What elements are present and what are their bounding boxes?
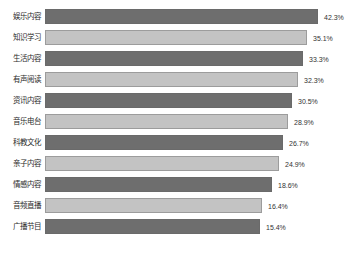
bar-row: 科教文化26.7% xyxy=(0,132,356,153)
bar-track: 16.4% xyxy=(45,195,356,216)
value-label: 32.3% xyxy=(304,75,324,84)
value-label: 24.9% xyxy=(285,159,305,168)
bar-track: 28.9% xyxy=(45,111,356,132)
category-label: 资讯内容 xyxy=(0,96,45,106)
category-label: 生活内容 xyxy=(0,54,45,64)
bar-track: 15.4% xyxy=(45,216,356,237)
bar xyxy=(45,114,288,129)
bar-row: 娱乐内容42.3% xyxy=(0,6,356,27)
value-label: 15.4% xyxy=(266,222,286,231)
bar-track: 42.3% xyxy=(45,6,356,27)
bar-track: 24.9% xyxy=(45,153,356,174)
bar xyxy=(45,72,298,87)
category-label: 有声阅读 xyxy=(0,75,45,85)
category-label: 情感内容 xyxy=(0,180,45,190)
category-label: 知识学习 xyxy=(0,33,45,43)
category-label: 音乐电台 xyxy=(0,117,45,127)
bar-row: 音乐电台28.9% xyxy=(0,111,356,132)
bar-track: 33.3% xyxy=(45,48,356,69)
bar xyxy=(45,156,279,171)
value-label: 28.9% xyxy=(294,117,314,126)
bar xyxy=(45,135,283,150)
bar-rows: 娱乐内容42.3%知识学习35.1%生活内容33.3%有声阅读32.3%资讯内容… xyxy=(0,6,356,237)
bar xyxy=(45,198,262,213)
bar xyxy=(45,51,303,66)
bar-row: 知识学习35.1% xyxy=(0,27,356,48)
bar-track: 18.6% xyxy=(45,174,356,195)
bar xyxy=(45,93,292,108)
value-label: 42.3% xyxy=(324,12,344,21)
bar-row: 音频直播16.4% xyxy=(0,195,356,216)
bar-row: 资讯内容30.5% xyxy=(0,90,356,111)
value-label: 16.4% xyxy=(268,201,288,210)
value-label: 33.3% xyxy=(309,54,329,63)
bar-row: 广播节目15.4% xyxy=(0,216,356,237)
category-label: 音频直播 xyxy=(0,201,45,211)
category-label: 亲子内容 xyxy=(0,159,45,169)
bar xyxy=(45,9,318,24)
bar-chart: 娱乐内容42.3%知识学习35.1%生活内容33.3%有声阅读32.3%资讯内容… xyxy=(0,0,356,254)
value-label: 30.5% xyxy=(298,96,318,105)
value-label: 26.7% xyxy=(289,138,309,147)
category-label: 广播节目 xyxy=(0,222,45,232)
bar-row: 亲子内容24.9% xyxy=(0,153,356,174)
bar xyxy=(45,177,272,192)
bar xyxy=(45,30,307,45)
bar-track: 32.3% xyxy=(45,69,356,90)
value-label: 35.1% xyxy=(313,33,333,42)
bar xyxy=(45,219,260,234)
category-label: 娱乐内容 xyxy=(0,12,45,22)
bar-track: 35.1% xyxy=(45,27,356,48)
bar-track: 26.7% xyxy=(45,132,356,153)
bar-row: 生活内容33.3% xyxy=(0,48,356,69)
value-label: 18.6% xyxy=(278,180,298,189)
bar-row: 有声阅读32.3% xyxy=(0,69,356,90)
bar-track: 30.5% xyxy=(45,90,356,111)
category-label: 科教文化 xyxy=(0,138,45,148)
bar-row: 情感内容18.6% xyxy=(0,174,356,195)
